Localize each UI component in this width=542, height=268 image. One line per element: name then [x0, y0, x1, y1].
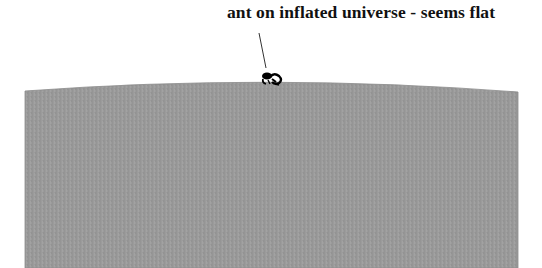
pointer-line	[259, 33, 266, 68]
diagram-canvas: ant on inflated universe - seems flat	[0, 0, 542, 268]
universe-surface	[25, 82, 518, 268]
ant-icon	[262, 72, 281, 85]
diagram-scene	[0, 0, 542, 268]
